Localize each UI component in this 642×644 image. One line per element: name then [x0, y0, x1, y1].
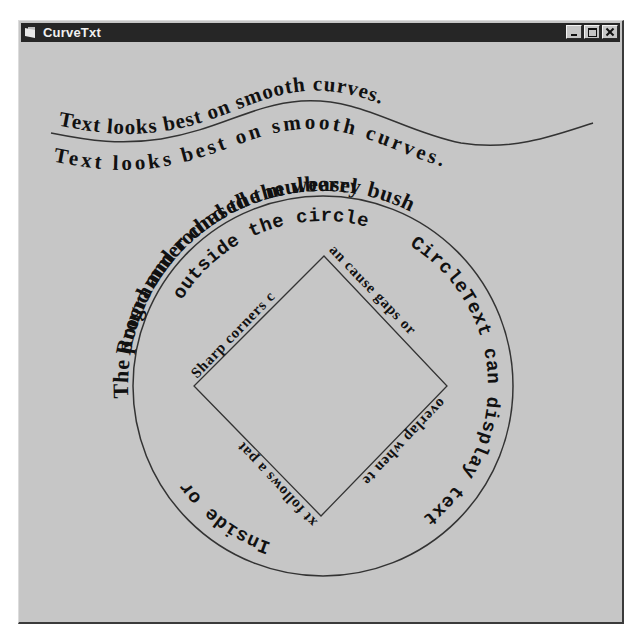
diamond-text-top-right: an cause gaps or: [326, 241, 420, 337]
client-area: Text looks best on smooth curves. Text l…: [21, 44, 620, 620]
diamond-text-top-left: Sharp corners c: [188, 288, 278, 381]
curve-text-canvas: Text looks best on smooth curves. Text l…: [1, 1, 642, 644]
diamond-outline: [194, 256, 447, 516]
diamond-text-bottom-right: overlap when te: [359, 395, 449, 489]
diamond-text-bottom-left: xt follows a pat: [233, 439, 320, 530]
inner-circle-text-right: CircleText can display text: [406, 232, 504, 531]
inner-circle-text-left: Inside or: [174, 476, 273, 558]
curvetxt-window: CurveTxt: [18, 20, 624, 624]
circle-outline: [133, 196, 513, 576]
